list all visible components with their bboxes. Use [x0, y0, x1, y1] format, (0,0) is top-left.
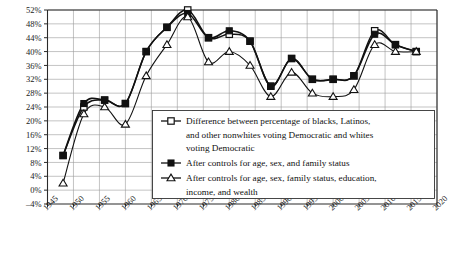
marker-open-triangle	[142, 72, 150, 79]
x-tick-label: 1955	[93, 193, 112, 212]
legend-label-line: and other nonwhites voting Democratic an…	[186, 130, 374, 140]
legend-label-line: After controls for age, sex, and family …	[186, 158, 350, 168]
marker-open-square	[168, 118, 174, 124]
y-tick-label: 28%	[26, 88, 42, 98]
x-tick-label: 1945	[41, 193, 60, 212]
marker-filled-square	[309, 76, 315, 82]
marker-filled-square	[372, 31, 378, 37]
chart-legend: Difference between percentage of blacks,…	[153, 111, 435, 199]
marker-filled-square	[247, 38, 253, 44]
y-tick-label: 32%	[26, 74, 42, 84]
y-tick-label: 4%	[30, 171, 41, 181]
marker-filled-square	[143, 49, 149, 55]
nonwhite-white-democratic-vote-gap-line-chart: 52%48%44%40%36%32%28%24%20%16%12%8%4%0%–…	[0, 0, 449, 258]
marker-filled-square	[205, 35, 211, 41]
marker-filled-square	[268, 83, 274, 89]
y-tick-label: 44%	[26, 33, 42, 43]
marker-open-triangle	[371, 41, 379, 48]
marker-filled-square	[351, 73, 357, 79]
legend-label-line: income, and wealth	[186, 187, 258, 197]
marker-filled-square	[330, 76, 336, 82]
y-tick-label: 36%	[26, 61, 42, 71]
marker-open-triangle	[204, 58, 212, 65]
y-tick-label: 24%	[26, 102, 42, 112]
marker-filled-square	[289, 56, 295, 62]
marker-filled-square	[164, 24, 170, 30]
y-tick-label: 52%	[26, 5, 42, 15]
y-tick-label: 8%	[30, 158, 41, 168]
marker-open-triangle	[59, 179, 67, 186]
legend-label-line: voting Democratic	[186, 143, 255, 153]
x-tick-label: 1960	[119, 193, 138, 212]
marker-open-triangle	[225, 48, 233, 55]
y-tick-label: 48%	[26, 19, 42, 29]
marker-filled-square	[168, 160, 174, 166]
y-axis-tick-labels: 52%48%44%40%36%32%28%24%20%16%12%8%4%0%–…	[25, 5, 48, 209]
legend-entry[interactable]: After controls for age, sex, and family …	[161, 158, 350, 168]
y-tick-label: 16%	[26, 130, 42, 140]
legend-label-line: Difference between percentage of blacks,…	[186, 116, 370, 126]
marker-open-triangle	[288, 68, 296, 75]
y-tick-label: 0%	[30, 185, 41, 195]
y-tick-label: 20%	[26, 116, 42, 126]
marker-filled-square	[122, 101, 128, 107]
marker-filled-square	[226, 28, 232, 34]
legend-label-line: After controls for age, sex, family stat…	[186, 173, 377, 183]
marker-filled-square	[81, 101, 87, 107]
y-tick-label: 12%	[26, 144, 42, 154]
chart-container: 52%48%44%40%36%32%28%24%20%16%12%8%4%0%–…	[0, 0, 449, 258]
marker-open-triangle	[350, 86, 358, 93]
y-tick-label: –4%	[25, 199, 42, 209]
y-tick-label: 40%	[26, 47, 42, 57]
x-tick-label: 1950	[67, 193, 86, 212]
marker-open-triangle	[163, 41, 171, 48]
marker-filled-square	[60, 153, 66, 159]
